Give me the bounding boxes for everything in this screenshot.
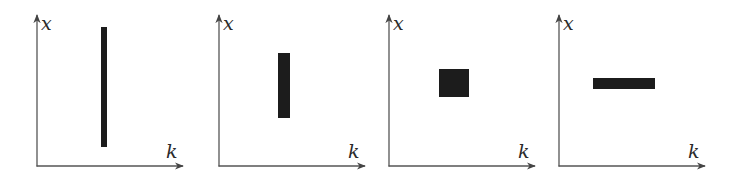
- resolution-tile-tall: [278, 53, 290, 118]
- panel-2: xk: [219, 12, 366, 167]
- x-k-tiling-diagram: xkxkxkxk: [0, 0, 732, 179]
- x-axis-label: k: [166, 140, 178, 162]
- panel-1: xk: [37, 12, 184, 167]
- x-axis-label: k: [518, 140, 530, 162]
- x-axis-label: k: [688, 140, 700, 162]
- resolution-tile-square: [439, 69, 469, 97]
- y-axis-label: x: [223, 12, 234, 34]
- panel-4: xk: [559, 12, 706, 167]
- y-axis-label: x: [563, 12, 574, 34]
- y-axis-label: x: [393, 12, 404, 34]
- panel-3: xk: [389, 12, 536, 167]
- resolution-tile-tall-narrow: [101, 27, 107, 147]
- y-axis-label: x: [41, 12, 52, 34]
- resolution-tile-wide-short: [593, 78, 655, 89]
- x-axis-label: k: [348, 140, 360, 162]
